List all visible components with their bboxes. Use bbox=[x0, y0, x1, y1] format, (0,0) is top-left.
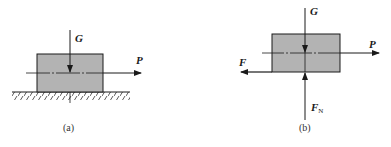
figure-a: G P (a) bbox=[12, 30, 143, 134]
label-fn-subscript: N bbox=[318, 107, 323, 115]
label-fn-b: FN bbox=[310, 101, 323, 115]
label-g-a: G bbox=[75, 32, 83, 44]
ground-hatch bbox=[12, 92, 130, 100]
label-p-a: P bbox=[136, 54, 143, 66]
label-f-b: F bbox=[238, 56, 247, 68]
caption-a: (a) bbox=[63, 122, 74, 134]
caption-b: (b) bbox=[299, 122, 311, 134]
figure-b: G P F FN (b) bbox=[238, 5, 379, 134]
diagram-canvas: G P (a) G P F FN (b) bbox=[0, 0, 391, 147]
label-g-b: G bbox=[310, 5, 318, 17]
label-p-b: P bbox=[369, 38, 376, 50]
